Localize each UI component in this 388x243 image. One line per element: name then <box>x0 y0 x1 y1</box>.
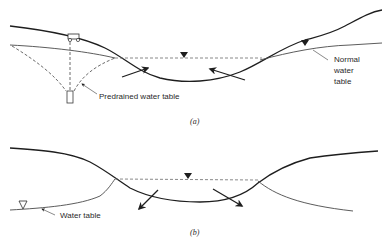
panel-b: Water table (b) <box>10 148 378 237</box>
predrained-water-table-cone <box>12 46 115 91</box>
water-table-symbol-b <box>19 201 27 209</box>
normal-water-table-line <box>10 43 382 60</box>
normal-leader <box>313 50 328 60</box>
normal-label-2: water <box>333 66 354 75</box>
caption-b: (b) <box>190 228 200 237</box>
stream-water-level-b <box>115 179 258 180</box>
groundwater-diagram: Predrained water table Normal water tabl… <box>0 0 388 243</box>
water-level-symbol-a <box>180 52 188 58</box>
well-screen <box>67 91 73 103</box>
pump-vehicle-icon <box>68 34 80 42</box>
normal-label-1: Normal <box>334 55 360 64</box>
outflow-arrow-right <box>213 189 242 206</box>
water-level-symbol-b <box>184 173 192 179</box>
water-level-symbol-normal <box>301 40 309 46</box>
inflow-arrow-left <box>122 68 148 77</box>
water-table-b <box>10 179 353 211</box>
caption-a: (a) <box>190 117 200 126</box>
panel-a: Predrained water table Normal water tabl… <box>10 10 382 126</box>
inflow-arrow-right <box>210 69 245 80</box>
predrained-leader <box>82 84 97 94</box>
predrained-label: Predrained water table <box>99 92 180 101</box>
ground-surface-b <box>10 148 378 202</box>
water-table-label: Water table <box>60 211 101 220</box>
water-table-leader <box>42 209 55 215</box>
ground-surface-a <box>10 10 382 81</box>
normal-label-3: table <box>334 77 352 86</box>
